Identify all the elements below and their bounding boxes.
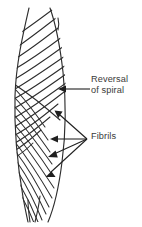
label-fibrils-line1: Fibrils (91, 131, 116, 142)
fibrils-arrow-3 (48, 139, 87, 157)
fiber-top-strand (58, 18, 59, 30)
label-reversal-line1: Reversal (91, 74, 128, 85)
label-reversal-of-spiral: Reversal of spiral (91, 74, 128, 95)
fibrils-arrow-4 (46, 139, 88, 177)
label-fibrils: Fibrils (91, 131, 116, 142)
fibrils-arrow-1 (55, 111, 88, 140)
label-reversal-line2: of spiral (91, 85, 128, 96)
fiber-spiral-diagram: Reversal of spiral Fibrils (0, 0, 142, 227)
reversal-boundary (14, 84, 60, 120)
reversal-arrow (58, 85, 90, 92)
diagram-canvas (0, 0, 142, 227)
fiber-tail-strands (28, 196, 40, 222)
lower-spiral-group (14, 88, 54, 223)
fibrils-arrow-group (46, 111, 88, 178)
